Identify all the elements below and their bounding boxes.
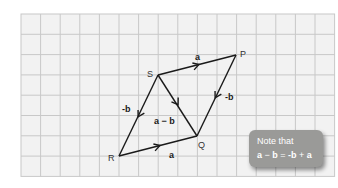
eq-plus: +: [297, 150, 307, 160]
vector-label-sr: -b: [122, 104, 131, 114]
eq-neg-b: -b: [288, 150, 297, 160]
note-equation: a − b = -b + a: [257, 148, 323, 162]
eq-equals: =: [278, 150, 288, 160]
note-title: Note that: [257, 134, 323, 148]
vector-label-pq: -b: [225, 92, 234, 102]
point-label-s: S: [147, 69, 153, 79]
point-label-p: P: [240, 49, 246, 59]
vector-label-sq: a − b: [154, 116, 175, 126]
point-label-r: R: [108, 153, 115, 163]
note-callout: Note that a − b = -b + a: [249, 130, 323, 167]
eq-a2: a: [307, 150, 312, 160]
eq-minus: −: [262, 150, 272, 160]
point-label-q: Q: [198, 140, 205, 150]
